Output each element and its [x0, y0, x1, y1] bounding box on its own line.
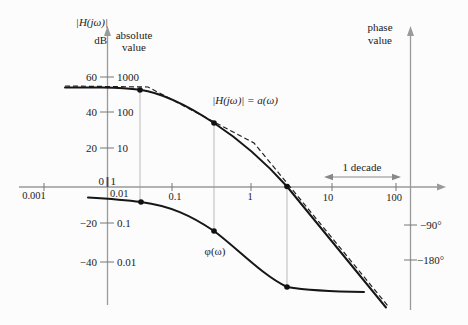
phase-break-point-3: [284, 284, 290, 290]
x-label-01: 0.1: [168, 191, 181, 202]
left-axis-title-db: dB: [94, 34, 107, 46]
right-axis-title-value: value: [368, 34, 392, 46]
db-label-60: 60: [86, 71, 98, 83]
magnitude-curve-label: |H(jω)| = a(ω): [212, 94, 278, 107]
abs-label-1000: 1000: [117, 71, 140, 83]
abs-label-0-01: 0.01: [117, 256, 136, 268]
x-label-10: 10: [323, 192, 334, 203]
right-axis-title-phase: phase: [367, 21, 392, 33]
abs-label-1: 1: [111, 175, 117, 187]
db-label-minus40: −40: [80, 256, 98, 268]
phase-label-minus180: −180°: [417, 254, 444, 266]
right-y-axis-arrow-icon: [407, 26, 414, 36]
left-axis-title-magnitude: |H(jω)|: [76, 16, 108, 29]
phase-curve: [88, 198, 364, 293]
abs-label-100: 100: [117, 106, 134, 118]
decade-label: 1 decade: [343, 161, 382, 173]
bode-plot-svg: 1 decade |H(jω)| dB absolute value phase…: [0, 0, 468, 325]
x-label-100: 100: [386, 192, 402, 203]
bode-plot-figure: 1 decade |H(jω)| dB absolute value phase…: [0, 0, 468, 325]
decade-arrow-left-icon: [324, 174, 333, 180]
phase-label-minus90: −90°: [420, 219, 442, 231]
abs-label-0-1: 0.1: [117, 217, 131, 229]
left-axis-subtitle-value: value: [122, 41, 146, 53]
phase-break-point-2: [211, 228, 217, 234]
phase-curve-label: φ(ω): [205, 245, 226, 258]
db-label-20: 20: [86, 142, 98, 154]
x-axis-arrow-icon: [437, 184, 446, 191]
db-label-40: 40: [86, 106, 98, 118]
magnitude-break-point-3: [284, 184, 290, 190]
abs-label-10: 10: [117, 142, 129, 154]
phase-break-point-1: [138, 199, 144, 205]
x-label-001: 0.01: [110, 188, 128, 199]
db-label-0: 0: [99, 175, 105, 187]
left-axis-subtitle-absolute: absolute: [116, 29, 153, 41]
db-label-minus20: −20: [80, 217, 98, 229]
magnitude-break-point-1: [137, 87, 143, 93]
x-label-1: 1: [247, 191, 252, 202]
x-label-0001: 0.001: [22, 190, 46, 201]
decade-arrow-right-icon: [392, 174, 401, 180]
magnitude-break-point-2: [211, 120, 217, 126]
